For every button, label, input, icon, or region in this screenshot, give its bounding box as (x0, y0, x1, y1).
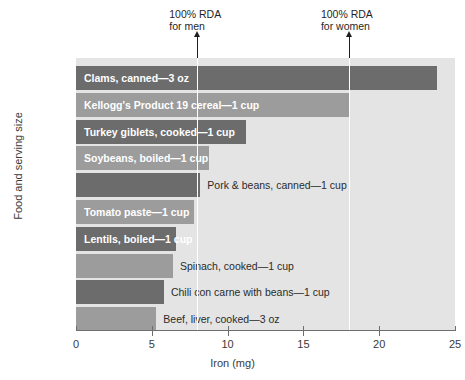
x-axis-tick-label: 15 (283, 338, 323, 350)
axis-end-cap (76, 326, 77, 331)
x-axis-tick (152, 331, 153, 336)
x-axis-tick-label: 0 (56, 338, 96, 350)
rda-men-label: 100% RDAfor men (169, 8, 221, 32)
x-axis-tick (228, 331, 229, 336)
bar-label: Soybeans, boiled—1 cup (84, 146, 208, 170)
rda-women-label-line1: 100% RDA (321, 8, 373, 20)
x-axis-tick-inner (152, 326, 153, 331)
x-axis-line (76, 330, 455, 331)
x-axis-tick-inner (228, 326, 229, 331)
bar (76, 173, 200, 197)
x-axis-tick-inner (303, 326, 304, 331)
x-axis-tick-inner (379, 326, 380, 331)
x-axis-tick (303, 331, 304, 336)
bar-label: Clams, canned—3 oz (84, 66, 189, 90)
bar-label: Pork & beans, canned—1 cup (207, 173, 347, 197)
axis-end-cap (455, 326, 456, 331)
bar-label: Beef, liver, cooked—3 oz (163, 307, 279, 330)
rda-men-arrow-shaft (197, 36, 198, 58)
y-axis-title: Food and serving size (12, 56, 24, 276)
x-axis-tick-label: 25 (435, 338, 465, 350)
bar-label: Kellogg's Product 19 cereal—1 cup (84, 93, 259, 117)
rda-women-line (349, 58, 350, 330)
bar-label: Turkey giblets, cooked—1 cup (84, 120, 235, 144)
bar (76, 307, 156, 330)
iron-content-bar-chart: Clams, canned—3 ozKellogg's Product 19 c… (0, 0, 465, 380)
bar-label: Lentils, boiled—1 cup (84, 227, 193, 251)
bar-label: Tomato paste—1 cup (84, 200, 189, 224)
rda-men-label-line2: for men (169, 20, 221, 32)
rda-men-line (197, 58, 198, 330)
rda-women-label-line2: for women (321, 20, 373, 32)
bar (76, 280, 164, 304)
x-axis-title: Iron (mg) (0, 357, 465, 369)
rda-women-arrow-shaft (349, 36, 350, 58)
x-axis-tick-label: 10 (208, 338, 248, 350)
x-axis-tick-label: 20 (359, 338, 399, 350)
x-axis-tick (379, 331, 380, 336)
x-axis-tick-label: 5 (132, 338, 172, 350)
bar-label: Chili con carne with beans—1 cup (171, 280, 330, 304)
plot-area: Clams, canned—3 ozKellogg's Product 19 c… (76, 58, 455, 330)
rda-men-label-line1: 100% RDA (169, 8, 221, 20)
rda-women-label: 100% RDAfor women (321, 8, 373, 32)
bar (76, 254, 173, 278)
